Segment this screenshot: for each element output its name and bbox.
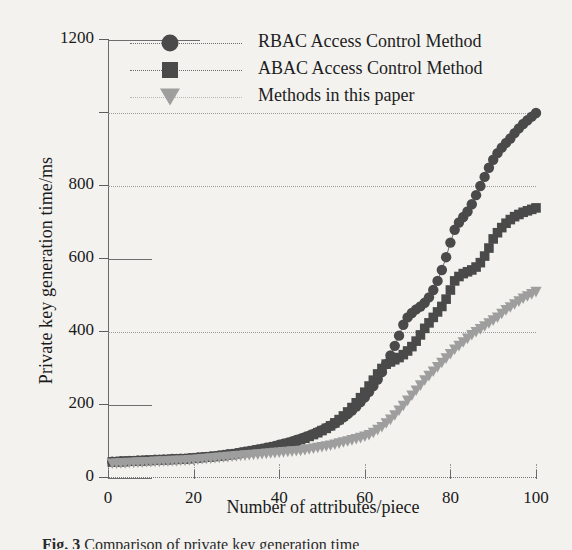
x-tick-label: 40	[271, 488, 288, 508]
legend-label: Methods in this paper	[258, 85, 414, 106]
legend-item-0: RBAC Access Control Method	[130, 30, 470, 57]
data-point	[484, 243, 494, 253]
data-point	[432, 276, 442, 286]
data-point	[394, 330, 404, 340]
y-tick-label: 800	[69, 174, 95, 194]
data-point	[437, 265, 447, 275]
series-line	[112, 113, 536, 462]
data-point	[428, 285, 438, 295]
data-point	[446, 285, 456, 295]
data-point	[390, 341, 400, 351]
legend-line	[130, 97, 242, 98]
x-tick-label: 60	[356, 488, 373, 508]
x-tick-mark	[536, 470, 537, 479]
legend-line	[130, 43, 242, 44]
data-point	[441, 294, 451, 304]
series-circle	[107, 108, 541, 467]
legend-marker-triangle-down-icon	[160, 89, 180, 106]
data-point	[479, 172, 489, 182]
legend-marker-square-icon	[162, 62, 178, 78]
legend-item-1: ABAC Access Control Method	[130, 57, 470, 84]
data-point	[531, 108, 541, 118]
y-tick-label: 0	[86, 466, 95, 486]
y-tick-label: 1200	[60, 28, 94, 48]
x-tick-label: 0	[104, 488, 113, 508]
caption-label: Fig. 3	[42, 536, 80, 549]
legend-marker-circle-icon	[162, 35, 179, 52]
x-tick-label: 100	[523, 488, 549, 508]
figure-private-key-generation-time: Private key generation time/ms Number of…	[0, 0, 572, 550]
series-triangle-down	[107, 287, 542, 469]
y-tick-label: 200	[69, 393, 95, 413]
data-point	[441, 252, 451, 262]
data-point	[471, 190, 481, 200]
data-point	[531, 203, 541, 213]
data-point	[445, 237, 455, 247]
legend-line	[130, 70, 242, 71]
data-point	[467, 199, 477, 209]
caption-text: Comparison of private key generation tim…	[80, 536, 359, 549]
x-tick-label: 80	[442, 488, 459, 508]
y-tick-label: 600	[69, 247, 95, 267]
legend-item-2: Methods in this paper	[130, 84, 470, 111]
y-gridline	[108, 478, 152, 479]
figure-caption: Fig. 3 Comparison of private key generat…	[42, 536, 359, 549]
x-axis-title: Number of attributes/piece	[108, 497, 538, 518]
legend: RBAC Access Control MethodABAC Access Co…	[130, 30, 470, 111]
data-point	[475, 181, 485, 191]
x-tick-label: 20	[185, 488, 202, 508]
y-tick-label: 400	[69, 320, 95, 340]
y-axis-title: Private key generation time/ms	[36, 71, 57, 471]
legend-label: ABAC Access Control Method	[258, 58, 483, 79]
legend-label: RBAC Access Control Method	[258, 31, 482, 52]
series-line	[112, 292, 536, 464]
